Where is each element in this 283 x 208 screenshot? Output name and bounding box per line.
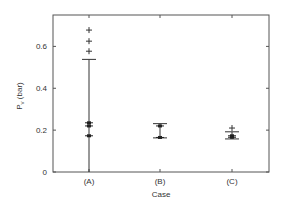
- x-tick-label: (A): [84, 177, 95, 186]
- series-c: [225, 125, 239, 139]
- y-tick-label: 0.2: [36, 126, 48, 135]
- x-tick-label: (B): [155, 177, 166, 186]
- y-tick-label: 0.6: [36, 42, 48, 51]
- data-series: [82, 27, 239, 172]
- y-tick-label: 0.4: [36, 84, 48, 93]
- series-a: [82, 27, 96, 172]
- series-b: [153, 124, 167, 139]
- chart: 00.20.40.6 (A)(B)(C) Case Pv (bar): [0, 0, 283, 208]
- y-axis-label: Pv (bar): [15, 82, 25, 110]
- x-tick-label: (C): [226, 177, 237, 186]
- y-tick-label: 0: [43, 168, 48, 177]
- x-axis-label: Case: [152, 190, 171, 199]
- y-axis-ticks: 00.20.40.6: [36, 42, 269, 177]
- x-axis-ticks: (A)(B)(C): [84, 15, 238, 186]
- plot-frame: [53, 15, 269, 172]
